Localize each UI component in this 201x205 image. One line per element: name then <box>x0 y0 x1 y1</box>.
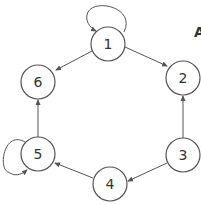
panel-label: A <box>194 24 201 40</box>
node-5-label: 5 <box>34 146 43 162</box>
edge-4-to-5 <box>55 163 93 178</box>
node-1-label: 1 <box>104 36 113 52</box>
node-6: 6 <box>21 65 55 99</box>
node-1: 1 <box>91 27 125 61</box>
node-4-label: 4 <box>106 176 115 192</box>
graph-canvas: 1 2 3 4 5 6 A <box>0 0 201 205</box>
node-5: 5 <box>21 137 55 171</box>
node-6-label: 6 <box>34 74 43 90</box>
node-3: 3 <box>166 138 200 172</box>
node-3-label: 3 <box>179 147 188 163</box>
edge-3-to-4 <box>128 163 167 181</box>
node-2: 2 <box>166 61 200 95</box>
node-2-label: 2 <box>179 70 188 86</box>
edge-1-to-2 <box>125 47 167 66</box>
edge-1-to-6 <box>56 51 92 70</box>
node-4: 4 <box>93 167 127 201</box>
